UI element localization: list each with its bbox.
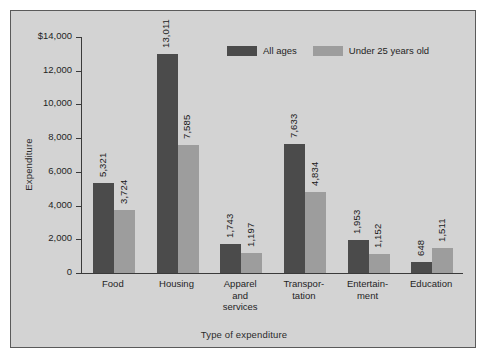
y-axis-title: Expenditure bbox=[23, 115, 34, 215]
y-axis-tick-label: 0 bbox=[67, 266, 72, 277]
bar-under-25: 3,724 bbox=[114, 210, 135, 273]
bar-value-label: 1,511 bbox=[436, 218, 447, 242]
y-axis-tick-mark bbox=[76, 71, 82, 72]
bar-all-ages: 5,321 bbox=[93, 183, 114, 273]
bar-all-ages: 13,011 bbox=[157, 54, 178, 273]
y-axis-tick-mark bbox=[76, 37, 82, 38]
bar-value-label: 5,321 bbox=[97, 153, 108, 177]
bar-value-label: 1,152 bbox=[372, 223, 383, 247]
bar-group: 7,6334,834 bbox=[276, 37, 340, 273]
bar-value-label: 4,834 bbox=[309, 161, 320, 185]
bar-under-25: 7,585 bbox=[178, 145, 199, 273]
bar-value-label: 1,197 bbox=[245, 223, 256, 247]
y-axis-tick-label: 6,000 bbox=[48, 165, 72, 176]
bar-value-label: 3,724 bbox=[118, 180, 129, 204]
bar-group: 1,7431,197 bbox=[212, 37, 276, 273]
y-axis-tick-label: 12,000 bbox=[43, 64, 72, 75]
category-label: Education bbox=[385, 278, 476, 290]
bar-group: 13,0117,585 bbox=[149, 37, 213, 273]
y-axis-tick-label: 4,000 bbox=[48, 199, 72, 210]
bar-all-ages: 1,743 bbox=[220, 244, 241, 273]
bar-value-label: 1,743 bbox=[224, 213, 235, 237]
y-axis-line bbox=[81, 37, 82, 273]
y-axis-tick-label: 8,000 bbox=[48, 131, 72, 142]
bar-under-25: 1,197 bbox=[241, 253, 262, 273]
y-axis-tick-mark bbox=[76, 206, 82, 207]
y-axis-tick-mark bbox=[76, 172, 82, 173]
bar-value-label: 1,953 bbox=[351, 210, 362, 234]
y-axis-tick-mark bbox=[76, 273, 82, 274]
bar-all-ages: 1,953 bbox=[348, 240, 369, 273]
bar-value-label: 13,011 bbox=[160, 19, 171, 48]
y-axis-tick-mark bbox=[76, 138, 82, 139]
x-axis-line bbox=[81, 273, 463, 274]
bar-all-ages: 648 bbox=[411, 262, 432, 273]
bar-value-label: 7,585 bbox=[181, 115, 192, 139]
bar-group: 6481,511 bbox=[403, 37, 467, 273]
bar-under-25: 4,834 bbox=[305, 192, 326, 273]
bar-group: 5,3213,724 bbox=[85, 37, 149, 273]
bar-under-25: 1,511 bbox=[432, 248, 453, 273]
bar-value-label: 7,633 bbox=[288, 114, 299, 138]
y-axis-tick-label: 2,000 bbox=[48, 232, 72, 243]
x-axis-title: Type of expenditure bbox=[11, 329, 476, 340]
plot-area: 02,0004,0006,0008,00010,00012,000$14,000… bbox=[81, 37, 463, 273]
y-axis-tick-mark bbox=[76, 104, 82, 105]
bar-under-25: 1,152 bbox=[369, 254, 390, 273]
chart-figure: Expenditure Type of expenditure All ages… bbox=[10, 10, 476, 348]
bar-all-ages: 7,633 bbox=[284, 144, 305, 273]
y-axis-tick-label: 10,000 bbox=[43, 97, 72, 108]
y-axis-tick-mark bbox=[76, 239, 82, 240]
bar-value-label: 648 bbox=[415, 240, 426, 256]
y-axis-tick-label: $14,000 bbox=[38, 30, 72, 41]
bar-group: 1,9531,152 bbox=[340, 37, 404, 273]
